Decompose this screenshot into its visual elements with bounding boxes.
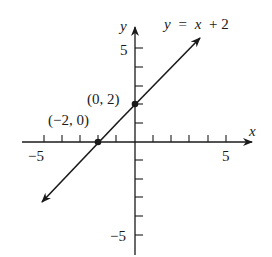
graph-y-equals-x-plus-2: −5 5 5 −5 x y y = x + 2 (0, 2) (−2, 0) [0, 0, 272, 257]
point-label-0-2: (0, 2) [87, 91, 120, 108]
y-axis-label: y [118, 18, 127, 34]
line-y-equals-x-plus-2 [120, 38, 200, 120]
point-0-2 [132, 101, 139, 108]
y-tick-label-neg5: −5 [110, 228, 126, 244]
x-tick-label-neg5: −5 [28, 148, 44, 164]
y-tick-label-5: 5 [120, 42, 128, 58]
point-neg2-0 [95, 139, 102, 146]
x-axis-label: x [248, 123, 256, 139]
point-label-neg2-0: (−2, 0) [48, 112, 89, 129]
equation-label: y = x + 2 [162, 16, 229, 32]
line-y-equals-x-plus-2-lower [42, 120, 120, 202]
x-tick-label-5: 5 [222, 148, 230, 164]
